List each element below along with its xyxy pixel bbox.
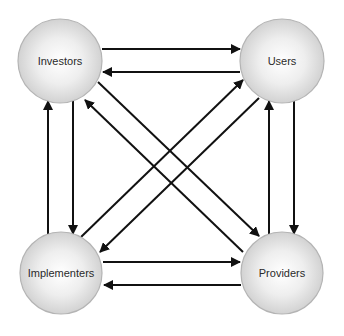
node-implementers: Implementers bbox=[20, 232, 102, 314]
stakeholder-diagram: InvestorsUsersImplementersProviders bbox=[0, 0, 344, 336]
node-providers: Providers bbox=[241, 232, 323, 314]
node-label: Users bbox=[268, 55, 297, 67]
nodes-layer: InvestorsUsersImplementersProviders bbox=[18, 19, 324, 314]
node-label: Implementers bbox=[28, 267, 95, 279]
arrow-investors-to-providers bbox=[98, 82, 259, 236]
node-users: Users bbox=[240, 19, 324, 103]
arrow-providers-to-investors bbox=[85, 100, 243, 252]
node-label: Providers bbox=[259, 267, 306, 279]
node-label: Investors bbox=[38, 55, 83, 67]
node-investors: Investors bbox=[18, 19, 102, 103]
arrow-users-to-implementers bbox=[100, 98, 259, 252]
arrow-implementers-to-users bbox=[81, 80, 243, 237]
